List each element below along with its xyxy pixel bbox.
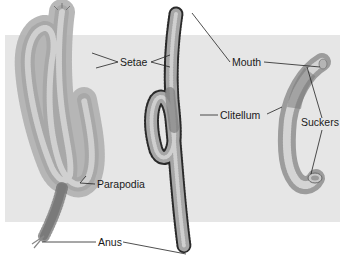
mouth-left-leader [192, 13, 230, 62]
label-clitellum: Clitellum [220, 109, 260, 121]
annelid-diagram: Setae Mouth Clitellum Suckers Parapodia … [0, 0, 340, 258]
polychaete-worm [28, 3, 92, 248]
setae-left-leader [92, 53, 118, 68]
label-suckers: Suckers [301, 116, 339, 128]
clitellum-right-leader [267, 107, 282, 114]
suckers-bottom-leader [311, 130, 322, 174]
earthworm [152, 14, 185, 246]
label-mouth: Mouth [232, 56, 261, 68]
label-parapodia: Parapodia [97, 178, 145, 190]
label-anus: Anus [98, 236, 122, 248]
label-setae: Setae [120, 56, 147, 68]
worm-illustrations [0, 0, 340, 258]
